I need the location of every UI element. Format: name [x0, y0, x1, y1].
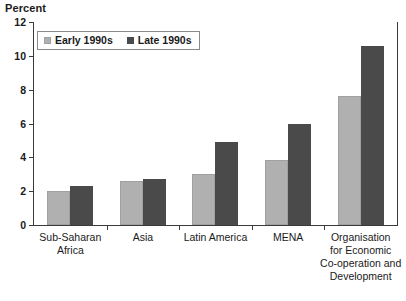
legend-swatch-icon-early — [44, 37, 51, 44]
bar-late-1990s — [70, 186, 93, 225]
y-axis-tick — [29, 225, 34, 226]
y-axis-tick-label: 6 — [20, 118, 26, 129]
x-axis-tick — [324, 225, 325, 230]
legend-label-early: Early 1990s — [55, 35, 113, 46]
bar-group — [324, 22, 397, 225]
bar-group — [107, 22, 180, 225]
bar-early-1990s — [47, 191, 70, 225]
category-label-line: Organisation — [311, 231, 406, 244]
y-axis-tick-label: 12 — [14, 17, 26, 28]
bar-group — [179, 22, 252, 225]
category-label-line: Development — [311, 270, 406, 283]
bar-late-1990s — [143, 179, 166, 225]
bar-early-1990s — [192, 174, 215, 225]
bar-late-1990s — [361, 46, 384, 225]
y-axis-tick-label: 8 — [20, 84, 26, 95]
x-axis-line — [33, 225, 398, 226]
x-axis-category-label: Organisationfor EconomicCo-operation and… — [311, 231, 406, 283]
plot-right-border — [397, 22, 398, 225]
x-axis-tick — [179, 225, 180, 230]
x-axis-category-labels: Sub-SaharanAfricaAsiaLatin AmericaMENAOr… — [33, 231, 398, 299]
y-axis-tick-label: 10 — [14, 51, 26, 62]
plot-area: 024681012 — [33, 22, 398, 225]
bars-layer — [34, 22, 397, 225]
legend-item-early-1990s: Early 1990s — [44, 35, 113, 46]
category-label-line: Co-operation and — [311, 257, 406, 270]
x-axis-tick — [252, 225, 253, 230]
legend-swatch-icon-late — [127, 37, 134, 44]
y-axis-tick-label: 2 — [20, 186, 26, 197]
category-label-line: for Economic — [311, 244, 406, 257]
bar-late-1990s — [215, 142, 238, 225]
bar-early-1990s — [120, 181, 143, 225]
x-axis-tick — [107, 225, 108, 230]
bar-group — [252, 22, 325, 225]
legend-label-late: Late 1990s — [138, 35, 192, 46]
bar-chart: Percent 024681012 Sub-SaharanAfricaAsiaL… — [0, 0, 406, 301]
bar-group — [34, 22, 107, 225]
legend-item-late-1990s: Late 1990s — [127, 35, 192, 46]
bar-early-1990s — [338, 96, 361, 225]
bar-late-1990s — [288, 124, 311, 226]
category-label-line: Africa — [21, 244, 120, 257]
chart-legend: Early 1990s Late 1990s — [37, 31, 200, 50]
bar-early-1990s — [265, 160, 288, 225]
y-axis-tick-label: 0 — [20, 220, 26, 231]
y-axis-tick-label: 4 — [20, 152, 26, 163]
y-axis-title: Percent — [5, 2, 46, 14]
